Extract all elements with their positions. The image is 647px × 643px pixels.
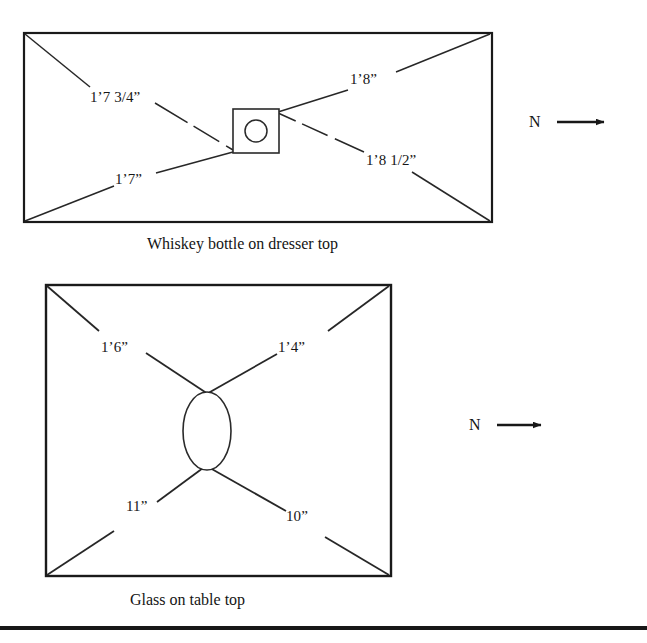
measure-line-br-b2	[210, 468, 286, 511]
measure-line-br-a2	[325, 537, 389, 575]
measure-line-tr-b	[278, 90, 348, 112]
dim-label-table-bottom-left: 11”	[126, 499, 147, 514]
measure-line-bl-a2	[47, 531, 114, 575]
dim-label-table-top-left: 1’6”	[101, 340, 128, 355]
measure-line-tl-b2	[146, 353, 211, 396]
measure-line-tl-a	[25, 34, 90, 87]
page-bottom-rule	[0, 626, 647, 630]
dim-label-dresser-top-left: 1’7 3/4”	[90, 90, 140, 105]
measure-line-tl-b	[155, 103, 233, 150]
measure-line-tr-a2	[328, 286, 389, 331]
measure-line-tr-a	[396, 34, 490, 72]
caption-table-top: Glass on table top	[130, 592, 245, 608]
measure-line-bl-b	[156, 152, 233, 173]
measure-line-br-a	[412, 172, 490, 221]
dim-label-dresser-bottom-left: 1’7”	[115, 172, 142, 187]
figure-page: 1’7 3/4” 1’8” 1’7” 1’8 1/2” Whiskey bott…	[0, 0, 647, 643]
measure-line-bl-b2	[157, 468, 203, 502]
caption-dresser-top: Whiskey bottle on dresser top	[147, 236, 338, 252]
measure-line-bl-a	[25, 186, 114, 221]
measure-line-br-b	[278, 113, 364, 152]
north-label-2: N	[469, 417, 481, 433]
dim-label-table-top-right: 1’4”	[278, 340, 305, 355]
glass-ellipse	[183, 392, 231, 470]
dim-label-dresser-bottom-right: 1’8 1/2”	[366, 153, 416, 168]
measure-line-tr-b2	[203, 354, 277, 396]
figure-dresser-top	[24, 33, 604, 222]
whiskey-bottle-footprint	[233, 109, 279, 153]
dim-label-dresser-top-right: 1’8”	[350, 72, 377, 87]
figure-table-top	[46, 285, 541, 576]
measure-line-tl-a2	[47, 286, 99, 331]
dim-label-table-bottom-right: 10”	[286, 509, 308, 524]
north-label-1: N	[529, 114, 541, 130]
